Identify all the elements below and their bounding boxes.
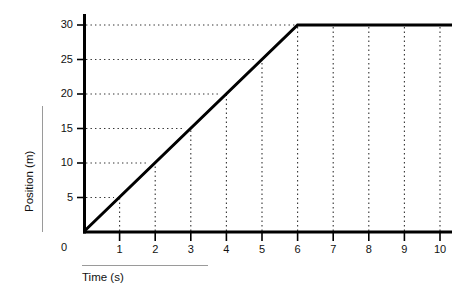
x-tick-label-3: 3 xyxy=(179,244,203,255)
y-tick-label-5: 5 xyxy=(47,192,73,203)
y-axis-title-rule xyxy=(42,106,43,232)
x-tick-label-5: 5 xyxy=(250,244,274,255)
x-axis-title-rule xyxy=(82,265,208,266)
x-tick-label-6: 6 xyxy=(286,244,310,255)
y-tick-label-20: 20 xyxy=(47,88,73,99)
x-tick-label-9: 9 xyxy=(392,244,416,255)
position-time-chart: 30 25 20 15 10 5 0 1 2 3 4 5 6 7 8 9 10 … xyxy=(0,0,464,294)
x-tick-label-4: 4 xyxy=(214,244,238,255)
x-tick-label-10: 10 xyxy=(428,244,452,255)
y-tick-label-30: 30 xyxy=(47,19,73,30)
y-tick-label-10: 10 xyxy=(47,157,73,168)
x-tick-label-1: 1 xyxy=(108,244,132,255)
x-tick-label-7: 7 xyxy=(321,244,345,255)
x-axis-title: Time (s) xyxy=(82,272,124,284)
horizontal-gridlines xyxy=(86,25,444,198)
y-tick-label-25: 25 xyxy=(47,54,73,65)
x-tick-label-8: 8 xyxy=(357,244,381,255)
y-axis-title: Position (m) xyxy=(24,151,36,212)
x-tick-label-2: 2 xyxy=(143,244,167,255)
y-tick-label-15: 15 xyxy=(47,123,73,134)
position-data-line xyxy=(85,25,453,231)
x-tick-label-0: 0 xyxy=(52,242,76,253)
